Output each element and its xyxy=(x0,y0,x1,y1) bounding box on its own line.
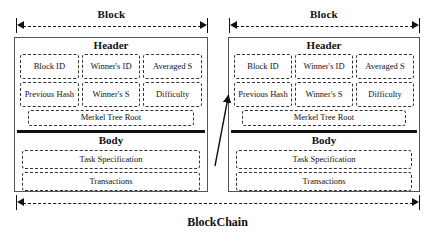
arrowhead-right-icon xyxy=(200,21,207,29)
block-2-merkel-wrap: Merkel Tree Root xyxy=(229,107,419,129)
field-winners-s: Winner's S xyxy=(295,82,353,107)
block-1-top-label: Block xyxy=(14,8,209,20)
field-averaged-s: Averaged S xyxy=(356,54,414,79)
block-1-width-arrow xyxy=(16,20,208,34)
block-1-header-title: Header xyxy=(15,39,207,52)
block-1-body-rows: Task Specification Transactions xyxy=(15,149,207,194)
block-1-body-title: Body xyxy=(15,134,207,147)
field-winners-s: Winner's S xyxy=(82,82,141,107)
arrowhead-right-icon xyxy=(412,198,419,206)
field-previous-hash: Previous Hash xyxy=(20,82,79,107)
block-2-header-title: Header xyxy=(229,39,419,52)
field-merkel-tree-root: Merkel Tree Root xyxy=(28,110,194,126)
arrowhead-left-icon xyxy=(17,21,24,29)
blockchain-width-arrow xyxy=(16,197,420,211)
block-1: Header Block ID Winner's ID Averaged S P… xyxy=(14,37,208,192)
dim-line xyxy=(23,203,413,204)
blockchain-label: BlockChain xyxy=(0,215,435,230)
header-body-divider xyxy=(17,130,205,133)
header-body-divider xyxy=(231,130,417,133)
dim-cap-right xyxy=(207,18,208,33)
block-2-body-rows: Task Specification Transactions xyxy=(229,149,419,194)
block-1-header-fields: Block ID Winner's ID Averaged S Previous… xyxy=(15,54,207,107)
field-merkel-tree-root: Merkel Tree Root xyxy=(242,110,406,126)
field-transactions: Transactions xyxy=(22,172,200,191)
block-2: Header Block ID Winner's ID Averaged S P… xyxy=(228,37,420,192)
field-task-specification: Task Specification xyxy=(236,150,412,169)
block-2-width-arrow xyxy=(229,20,420,34)
dim-cap-right xyxy=(419,18,420,33)
block-2-body-title: Body xyxy=(229,134,419,147)
field-block-id: Block ID xyxy=(234,54,292,79)
block-2-top-label: Block xyxy=(228,8,420,20)
blockchain-diagram: Block Block Header Block ID Winner's ID … xyxy=(0,0,435,237)
arrowhead-left-icon xyxy=(17,198,24,206)
dim-line xyxy=(23,26,201,27)
field-winners-id: Winner's ID xyxy=(295,54,353,79)
field-difficulty: Difficulty xyxy=(143,82,202,107)
block-1-merkel-wrap: Merkel Tree Root xyxy=(15,107,207,129)
field-transactions: Transactions xyxy=(236,172,412,191)
dim-cap-right xyxy=(419,195,420,210)
field-winners-id: Winner's ID xyxy=(82,54,141,79)
field-block-id: Block ID xyxy=(20,54,79,79)
field-previous-hash: Previous Hash xyxy=(234,82,292,107)
field-averaged-s: Averaged S xyxy=(143,54,202,79)
arrowhead-right-icon xyxy=(412,21,419,29)
field-difficulty: Difficulty xyxy=(356,82,414,107)
block-2-header-fields: Block ID Winner's ID Averaged S Previous… xyxy=(229,54,419,107)
dim-line xyxy=(236,26,413,27)
field-task-specification: Task Specification xyxy=(22,150,200,169)
arrowhead-left-icon xyxy=(230,21,237,29)
